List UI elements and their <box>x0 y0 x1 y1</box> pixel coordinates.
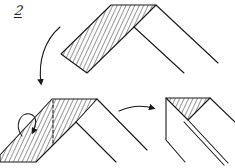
outer-right-edge <box>156 5 218 63</box>
outer-right-edge <box>210 98 235 122</box>
hatched-band <box>0 99 97 162</box>
hatched-band <box>61 5 156 73</box>
inner-right-edge <box>76 122 116 162</box>
folding-diagram <box>0 0 235 168</box>
initial-fold-state <box>61 5 218 73</box>
diagonal-edge-2 <box>184 122 224 165</box>
inner-right-edge <box>134 27 184 73</box>
final-fold-state <box>166 98 235 165</box>
right-curved-arrow <box>119 106 153 111</box>
down-curved-arrow <box>40 27 60 83</box>
hatched-triangle <box>166 98 210 120</box>
diagonal-edge-1 <box>188 120 228 163</box>
